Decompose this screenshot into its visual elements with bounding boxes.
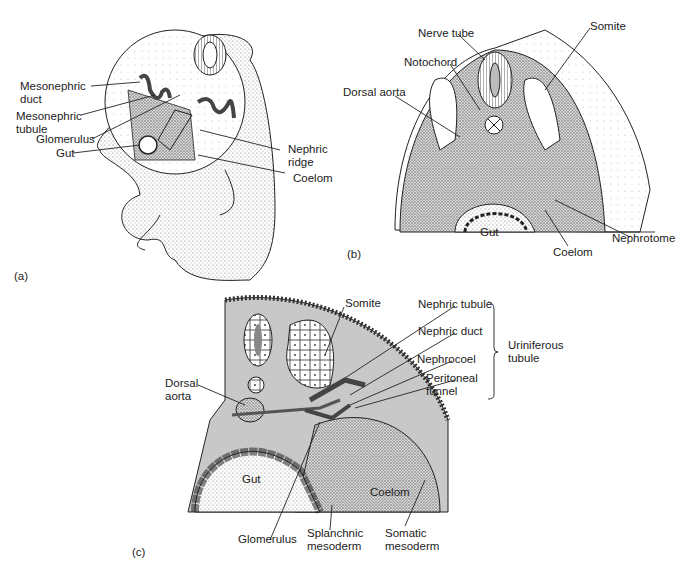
- label-line: funnel: [426, 385, 478, 398]
- label-line: Nephric: [288, 143, 328, 156]
- label-coelom: Coelom: [293, 172, 333, 185]
- label-notochord: Notochord: [404, 56, 457, 69]
- label-line: ridge: [288, 156, 328, 169]
- label-line: Mesonephric: [16, 110, 82, 123]
- label-uriniferous-tubule: Uriniferous tubule: [508, 339, 564, 365]
- label-line: Uriniferous: [508, 339, 564, 352]
- label-somite: Somite: [345, 297, 381, 310]
- label-line: mesoderm: [307, 540, 363, 553]
- label-gut: Gut: [242, 473, 261, 486]
- label-nephrotome: Nephrotome: [612, 232, 675, 245]
- panel-c-section: [188, 298, 448, 512]
- label-gut: Gut: [480, 226, 499, 239]
- label-somatic-mesoderm: Somatic mesoderm: [385, 527, 439, 553]
- label-coelom: Coelom: [553, 246, 593, 259]
- label-glomerulus: Glomerulus: [36, 133, 95, 146]
- panel-label-b: (b): [347, 248, 361, 261]
- label-line: Splanchnic: [307, 527, 363, 540]
- label-coelom: Coelom: [370, 486, 410, 499]
- label-line: Peritoneal: [426, 372, 478, 385]
- label-mesonephric-duct: Mesonephric duct: [20, 80, 86, 106]
- label-dorsal-aorta: Dorsal aorta: [165, 377, 198, 403]
- label-line: tubule: [508, 352, 564, 365]
- label-line: Mesonephric: [20, 80, 86, 93]
- label-somite: Somite: [590, 20, 626, 33]
- label-glomerulus: Glomerulus: [238, 533, 297, 546]
- panel-label-c: (c): [132, 546, 145, 559]
- label-nephrocoel: Nephrocoel: [417, 353, 476, 366]
- panel-label-a: (a): [14, 270, 28, 283]
- label-nephric-ridge: Nephric ridge: [288, 143, 328, 169]
- label-gut: Gut: [56, 147, 75, 160]
- label-nephric-tubule: Nephric tubule: [418, 298, 492, 311]
- label-line: duct: [20, 93, 86, 106]
- label-line: mesoderm: [385, 540, 439, 553]
- label-line: Dorsal: [165, 377, 198, 390]
- label-nephric-duct: Nephric duct: [418, 325, 483, 338]
- label-line: aorta: [165, 390, 198, 403]
- label-nerve-tube: Nerve tube: [418, 27, 474, 40]
- panel-a-embryo: [97, 30, 275, 280]
- label-peritoneal-funnel: Peritoneal funnel: [426, 372, 478, 398]
- label-splanchnic-mesoderm: Splanchnic mesoderm: [307, 527, 363, 553]
- label-line: Somatic: [385, 527, 439, 540]
- label-dorsal-aorta: Dorsal aorta: [343, 86, 406, 99]
